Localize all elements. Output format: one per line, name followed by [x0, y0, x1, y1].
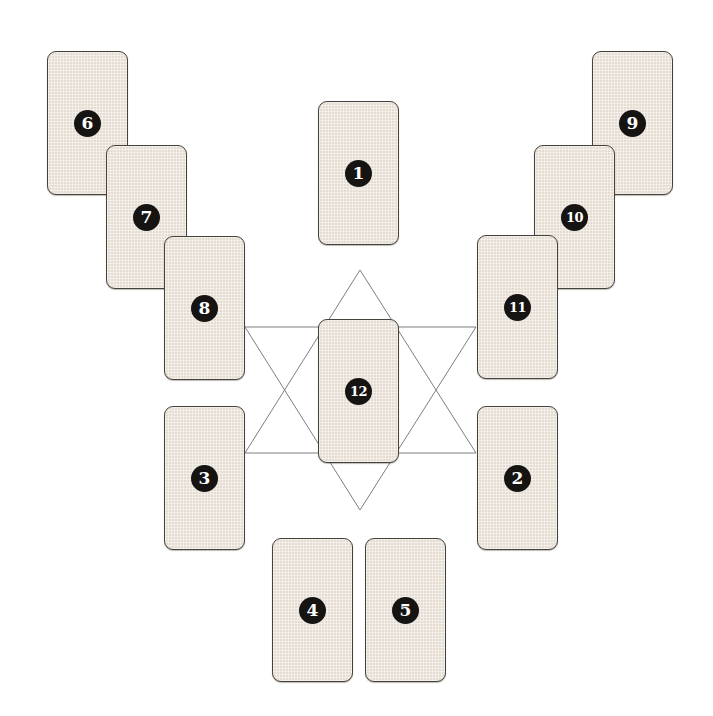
tarot-card-5[interactable]: 5	[365, 538, 446, 682]
tarot-card-3[interactable]: 3	[164, 406, 245, 550]
card-number-badge: 11	[504, 294, 531, 321]
card-number-badge: 1	[345, 160, 372, 187]
tarot-card-11[interactable]: 11	[477, 235, 558, 379]
card-number-badge: 8	[191, 295, 218, 322]
tarot-card-12[interactable]: 12	[318, 319, 399, 463]
tarot-card-8[interactable]: 8	[164, 236, 245, 380]
card-number-badge: 4	[299, 597, 326, 624]
card-number-badge: 6	[74, 110, 101, 137]
card-number-badge: 5	[392, 597, 419, 624]
card-number-badge: 10	[561, 204, 588, 231]
card-number-badge: 7	[133, 204, 160, 231]
card-number-badge: 3	[191, 465, 218, 492]
tarot-card-2[interactable]: 2	[477, 406, 558, 550]
spread-canvas: 6 7 8 9 10 11 1 12 3 2 4 5	[0, 0, 713, 716]
tarot-card-4[interactable]: 4	[272, 538, 353, 682]
card-number-badge: 2	[504, 465, 531, 492]
tarot-card-1[interactable]: 1	[318, 101, 399, 245]
card-number-badge: 9	[619, 110, 646, 137]
card-number-badge: 12	[345, 378, 372, 405]
